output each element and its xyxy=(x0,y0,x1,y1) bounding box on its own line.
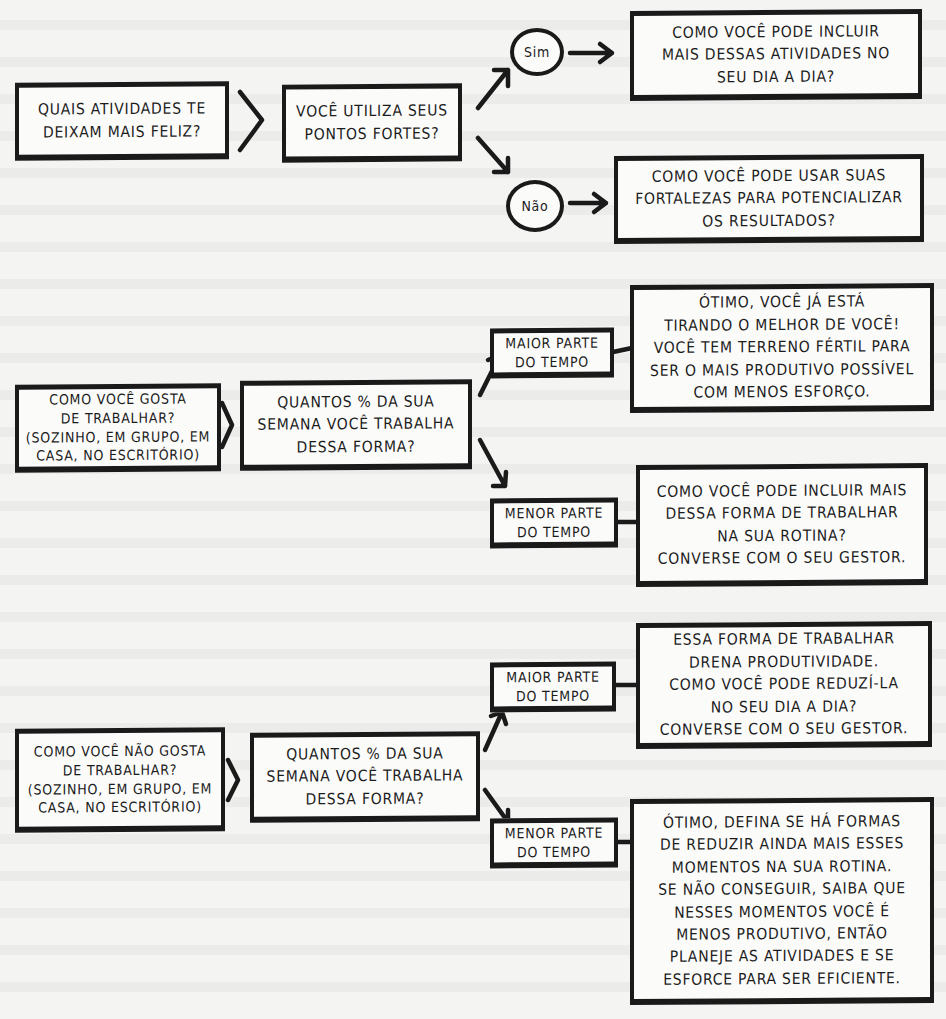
flow1-yes-circle: Sim xyxy=(510,28,564,76)
flow3-start-box: Como você não gosta de trabalhar? (sozin… xyxy=(15,727,225,832)
flow3-question-box: Quantos % da sua semana você trabalha de… xyxy=(250,731,480,823)
flow2-most-time-box: Maior parte do tempo xyxy=(490,328,614,379)
flow3-least-outcome-box: Ótimo, defina se há formas de reduzir ai… xyxy=(630,797,934,1005)
flow3-most-time-box: Maior parte do tempo xyxy=(490,662,616,713)
flow2-least-time-box: Menor parte do tempo xyxy=(490,498,618,549)
flow1-yes-outcome-box: Como você pode incluir mais dessas ativi… xyxy=(630,9,922,101)
flow1-start-box: Quais atividades te deixam mais feliz? xyxy=(15,81,229,160)
flow2-least-outcome-box: Como você pode incluir mais dessa forma … xyxy=(636,463,928,587)
flow3-least-time-box: Menor parte do tempo xyxy=(490,818,618,869)
flow1-no-outcome-box: Como você pode usar suas fortalezas para… xyxy=(614,154,924,244)
flow2-question-box: Quantos % da sua semana você trabalha de… xyxy=(240,379,472,471)
flow1-question-box: Você utiliza seus pontos fortes? xyxy=(282,83,462,162)
flow2-start-box: Como você gosta de trabalhar? (sozinho, … xyxy=(15,383,221,472)
flow1-no-circle: Não xyxy=(506,180,564,232)
flow3-most-outcome-box: Essa forma de trabalhar drena produtivid… xyxy=(636,621,932,749)
flow2-most-outcome-box: Ótimo, você já está tirando o melhor de … xyxy=(630,283,934,413)
